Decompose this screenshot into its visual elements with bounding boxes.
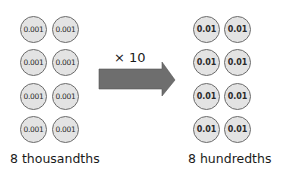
right-group-label: 8 hundredths bbox=[188, 151, 271, 166]
hundredth-coin: 0.01 bbox=[224, 16, 251, 43]
hundredth-coin: 0.01 bbox=[193, 49, 220, 76]
hundredth-coin: 0.01 bbox=[224, 49, 251, 76]
hundredth-coin: 0.01 bbox=[193, 116, 220, 143]
hundredth-coin: 0.01 bbox=[224, 116, 251, 143]
hundredth-coin: 0.01 bbox=[193, 16, 220, 43]
hundredth-coin: 0.01 bbox=[224, 83, 251, 110]
hundredth-coin: 0.01 bbox=[193, 83, 220, 110]
